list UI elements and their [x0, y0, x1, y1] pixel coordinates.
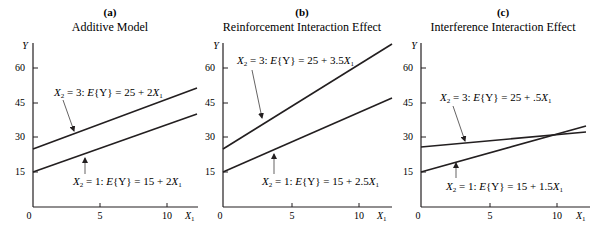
y-tick-label: 60 [205, 62, 215, 73]
equation-upper: X2 = 3: E{Y} = 25 + .5X1 [439, 91, 552, 105]
y-axis-label: Y [22, 40, 29, 51]
equation-lower: X2 = 1: E{Y} = 15 + 2.5X1 [261, 175, 379, 189]
panel-letter: (c) [497, 6, 510, 19]
x-tick-label: 5 [98, 210, 103, 221]
y-tick-label: 45 [15, 97, 25, 108]
origin-label: 0 [218, 210, 223, 221]
y-tick-label: 45 [403, 97, 413, 108]
x-tick-label: 5 [488, 210, 493, 221]
y-tick-label: 15 [15, 166, 25, 177]
y-tick-label: 60 [403, 62, 413, 73]
x-tick-label: 10 [162, 210, 172, 221]
y-tick-label: 45 [205, 97, 215, 108]
line-x2-1 [223, 98, 392, 172]
panel-title: Reinforcement Interaction Effect [223, 20, 382, 34]
arrow-upper [252, 70, 262, 118]
origin-label: 0 [416, 210, 421, 221]
panel-title: Interference Interaction Effect [430, 20, 576, 34]
arrow-upper [63, 100, 74, 131]
line-x2-3 [421, 132, 586, 147]
equation-lower: X2 = 1: E{Y} = 15 + 2X1 [72, 175, 182, 189]
y-ticks [421, 68, 426, 172]
y-ticks [33, 68, 38, 172]
panel-title: Additive Model [72, 20, 149, 34]
panel-a: (a) Additive Model Y 60 45 30 15 0 5 10 … [15, 6, 198, 223]
x-axis-label: X1 [575, 210, 586, 223]
y-tick-label: 15 [205, 166, 215, 177]
x-tick-label: 5 [290, 210, 295, 221]
y-axis-label: Y [411, 40, 418, 51]
y-axis-label: Y [213, 40, 220, 51]
panel-letter: (a) [104, 6, 117, 19]
line-x2-1 [421, 126, 586, 172]
x-tick-label: 10 [354, 210, 364, 221]
y-tick-label: 60 [15, 62, 25, 73]
arrow-upper [453, 106, 465, 141]
y-tick-label: 15 [403, 166, 413, 177]
x-tick-label: 10 [552, 210, 562, 221]
figure: (a) Additive Model Y 60 45 30 15 0 5 10 … [0, 0, 605, 234]
y-tick-label: 30 [205, 131, 215, 142]
line-x2-1 [33, 114, 197, 172]
equation-lower: X2 = 1: E{Y} = 15 + 1.5X1 [445, 180, 563, 194]
panel-b: (b) Reinforcement Interaction Effect Y 6… [205, 6, 392, 223]
equation-upper: X2 = 3: E{Y} = 25 + 3.5X1 [236, 54, 354, 68]
y-ticks [223, 68, 228, 172]
panel-c: (c) Interference Interaction Effect Y 60… [403, 6, 590, 223]
equation-upper: X2 = 3: E{Y} = 25 + 2X1 [53, 86, 163, 100]
panel-letter: (b) [295, 6, 309, 19]
x-axis-label: X1 [184, 210, 195, 223]
y-tick-label: 30 [15, 131, 25, 142]
origin-label: 0 [27, 210, 32, 221]
y-tick-label: 30 [403, 131, 413, 142]
x-axis-label: X1 [376, 210, 387, 223]
